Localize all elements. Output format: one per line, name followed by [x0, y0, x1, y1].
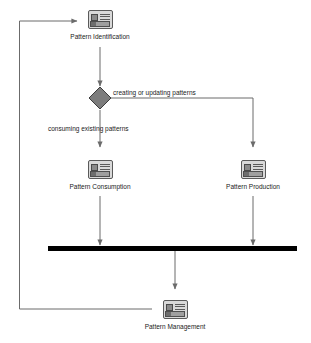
person-glyph	[244, 164, 251, 171]
list-lines-glyph	[175, 304, 185, 311]
node-pattern-identification[interactable]: Pattern Identification	[45, 10, 155, 41]
list-lines-glyph	[253, 164, 263, 171]
node-label: Pattern Identification	[70, 32, 129, 41]
use-case-icon	[241, 160, 266, 179]
list-lines-glyph	[100, 164, 110, 171]
node-pattern-management[interactable]: Pattern Management	[120, 300, 230, 331]
node-pattern-production[interactable]: Pattern Production	[198, 160, 308, 191]
edge-label-consuming-existing: consuming existing patterns	[48, 124, 129, 133]
edge-label-creating-or-updating: creating or updating patterns	[113, 88, 196, 97]
person-glyph	[91, 164, 98, 171]
person-glyph	[91, 14, 98, 21]
person-glyph	[166, 304, 173, 311]
use-case-icon	[163, 300, 188, 319]
synchronization-bar	[48, 246, 297, 251]
node-label: Pattern Consumption	[69, 182, 130, 191]
node-label: Pattern Production	[226, 182, 280, 191]
edge-decision-to-production	[111, 98, 253, 147]
node-pattern-consumption[interactable]: Pattern Consumption	[45, 160, 155, 191]
decision-diamond[interactable]	[89, 87, 111, 109]
icon-base-dot-glyph	[91, 22, 96, 26]
list-lines-glyph	[100, 14, 110, 21]
use-case-icon	[88, 160, 113, 179]
use-case-icon	[88, 10, 113, 29]
icon-base-dot-glyph	[244, 172, 249, 176]
icon-base-dot-glyph	[166, 312, 171, 316]
node-label: Pattern Management	[145, 322, 206, 331]
icon-base-dot-glyph	[91, 172, 96, 176]
